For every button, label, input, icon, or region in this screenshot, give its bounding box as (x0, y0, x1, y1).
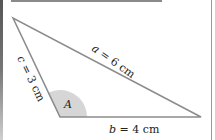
diagram-frame: A a = 6 cm c = 3 cm b = 4 cm (0, 0, 215, 140)
side-b-value: = 4 cm (116, 123, 160, 136)
angle-a-label: A (63, 98, 72, 111)
side-a-value: = 6 cm (95, 46, 138, 82)
triangle-diagram: A a = 6 cm c = 3 cm b = 4 cm (0, 0, 215, 140)
side-b-label: b = 4 cm (109, 123, 160, 136)
side-c-label: c = 3 cm (14, 54, 48, 105)
side-b-var: b (109, 123, 116, 136)
triangle-shape (13, 18, 201, 117)
